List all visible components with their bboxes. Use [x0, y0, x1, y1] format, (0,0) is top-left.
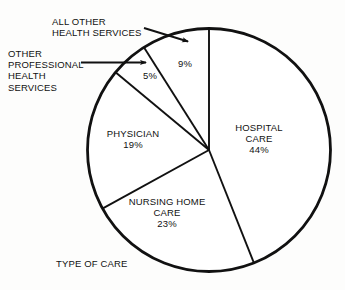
label-nursing-home-care: NURSING HOME CARE 23%: [126, 196, 208, 230]
chart-caption-type-of-care: TYPE OF CARE: [56, 258, 127, 269]
pie-chart-figure: ALL OTHER HEALTH SERVICES OTHER PROFESSI…: [0, 0, 345, 290]
label-percent-all-other-health-services: 9%: [174, 58, 196, 69]
label-percent-other-professional-health-services: 5%: [140, 70, 160, 81]
label-hospital-care: HOSPITAL CARE 44%: [228, 122, 290, 156]
pie-chart-graphic: [0, 0, 345, 290]
label-physician: PHYSICIAN 19%: [99, 128, 167, 150]
label-other-professional-health-services: OTHER PROFESSIONAL HEALTH SERVICES: [8, 48, 84, 93]
label-all-other-health-services: ALL OTHER HEALTH SERVICES: [52, 16, 142, 38]
